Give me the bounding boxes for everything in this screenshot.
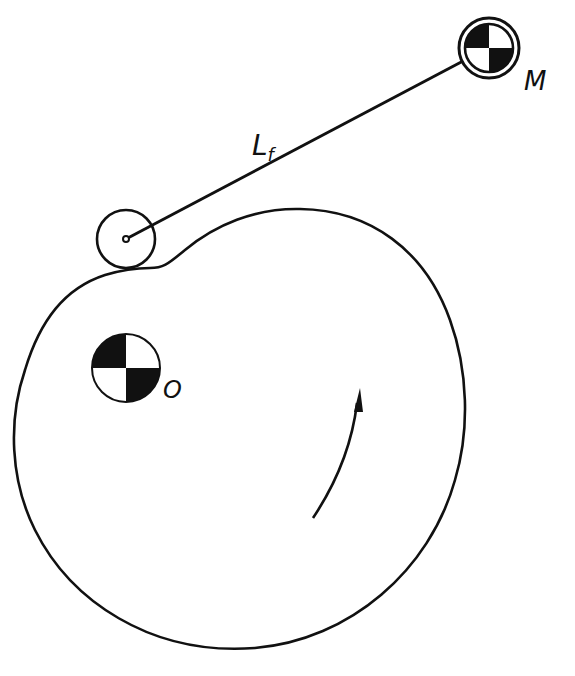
- label-follower-length: Lf: [252, 132, 274, 164]
- roller-follower: [97, 210, 155, 268]
- label-cam-center-o: O: [163, 378, 182, 402]
- label-mass-m: M: [524, 68, 546, 94]
- cam-follower-diagram: [0, 0, 575, 676]
- label-follower-length-main: L: [252, 129, 268, 162]
- follower-arm: [126, 60, 465, 239]
- label-follower-length-sub: f: [268, 144, 274, 165]
- roller-pivot-icon: [123, 236, 129, 242]
- rotation-arrow-icon: [313, 388, 363, 518]
- mass-center-symbol-O: [92, 334, 160, 402]
- cam-profile: [14, 209, 465, 649]
- mass-center-symbol-M: [459, 18, 519, 78]
